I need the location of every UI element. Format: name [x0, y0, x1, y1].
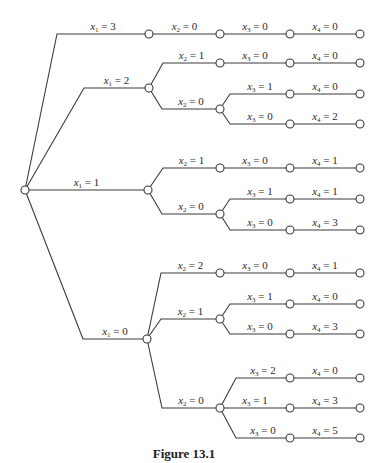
tree-node: [216, 164, 224, 172]
edge-label: x3 = 0: [249, 424, 276, 438]
tree-node: [216, 404, 224, 412]
edge-label: x3 = 0: [246, 110, 273, 124]
edge-label: x3 = 0: [241, 154, 268, 168]
tree-node: [216, 210, 224, 218]
edge-label: x4 = 1: [311, 185, 338, 199]
tree-node: [356, 120, 364, 128]
edge-label: x1 = 0: [101, 325, 128, 339]
tree-node: [286, 300, 294, 308]
tree-node: [356, 434, 364, 442]
tree-node: [356, 90, 364, 98]
edge-label: x3 = 1: [246, 185, 273, 199]
tree-node: [356, 269, 364, 277]
tree-node: [144, 186, 152, 194]
tree-node: [145, 84, 153, 92]
tree-node: [286, 59, 294, 67]
edge-label: x3 = 0: [246, 320, 273, 334]
edge-label: x2 = 0: [171, 20, 198, 34]
tree-node: [356, 374, 364, 382]
tree-edge: [147, 319, 216, 339]
edge-labels: x1 = 3x2 = 0x3 = 0x4 = 0x1 = 2x2 = 1x3 =…: [73, 20, 339, 438]
tree-node: [145, 30, 153, 38]
edge-label: x3 = 1: [246, 80, 273, 94]
edge-label: x3 = 1: [246, 290, 273, 304]
edge-label: x2 = 0: [177, 95, 204, 109]
edge-label: x4 = 3: [311, 394, 338, 408]
tree-node: [286, 226, 294, 234]
edge-label: x3 = 1: [241, 394, 268, 408]
tree-node: [356, 300, 364, 308]
edge-label: x1 = 3: [89, 20, 116, 34]
tree-node: [286, 404, 294, 412]
edge-label: x4 = 2: [311, 110, 338, 124]
edge-label: x4 = 0: [311, 49, 338, 63]
decision-tree-diagram: x1 = 3x2 = 0x3 = 0x4 = 0x1 = 2x2 = 1x3 =…: [0, 0, 384, 463]
tree-node: [286, 120, 294, 128]
tree-edge: [25, 190, 143, 339]
figure-caption-text: Figure 13.1: [153, 446, 216, 461]
tree-node: [216, 315, 224, 323]
tree-node: [356, 195, 364, 203]
tree-node: [216, 59, 224, 67]
tree-node: [356, 404, 364, 412]
root-node: [21, 186, 29, 194]
edge-label: x3 = 0: [241, 20, 268, 34]
tree-node: [286, 164, 294, 172]
edge-label: x4 = 0: [311, 364, 338, 378]
figure-caption: Figure 13.1: [0, 446, 384, 462]
tree-edge: [220, 94, 286, 109]
tree-node: [143, 335, 151, 343]
tree-node: [286, 195, 294, 203]
edge-label: x4 = 3: [311, 216, 338, 230]
tree-node: [356, 164, 364, 172]
edge-label: x1 = 2: [103, 74, 130, 88]
edge-label: x3 = 0: [241, 259, 268, 273]
edge-label: x4 = 3: [311, 320, 338, 334]
tree-node: [216, 105, 224, 113]
tree-node: [356, 226, 364, 234]
tree-edge: [148, 168, 216, 190]
tree-edge: [220, 199, 286, 214]
tree-node: [286, 30, 294, 38]
tree-node: [286, 374, 294, 382]
edge-label: x4 = 0: [311, 20, 338, 34]
edge-label: x1 = 1: [73, 176, 100, 190]
edge-label: x4 = 0: [311, 290, 338, 304]
edge-label: x4 = 0: [311, 80, 338, 94]
edge-label: x3 = 0: [246, 216, 273, 230]
tree-node: [286, 90, 294, 98]
tree-edge: [149, 63, 216, 88]
edge-label: x2 = 1: [178, 154, 205, 168]
tree-node: [356, 59, 364, 67]
edge-label: x3 = 2: [249, 364, 276, 378]
edge-label: x2 = 2: [177, 259, 204, 273]
edge-label: x4 = 1: [311, 154, 338, 168]
edge-label: x3 = 0: [241, 49, 268, 63]
tree-node: [286, 434, 294, 442]
tree-edge: [25, 34, 145, 190]
edge-label: x2 = 0: [177, 200, 204, 214]
edge-label: x2 = 1: [177, 305, 204, 319]
edge-label: x2 = 0: [177, 394, 204, 408]
edge-label: x4 = 5: [311, 424, 338, 438]
tree-edge: [220, 304, 286, 319]
tree-node: [356, 330, 364, 338]
tree-node: [356, 30, 364, 38]
tree-node: [216, 30, 224, 38]
tree-node: [216, 269, 224, 277]
tree-node: [286, 330, 294, 338]
tree-node: [286, 269, 294, 277]
edge-label: x2 = 1: [178, 49, 205, 63]
edge-label: x4 = 1: [311, 259, 338, 273]
